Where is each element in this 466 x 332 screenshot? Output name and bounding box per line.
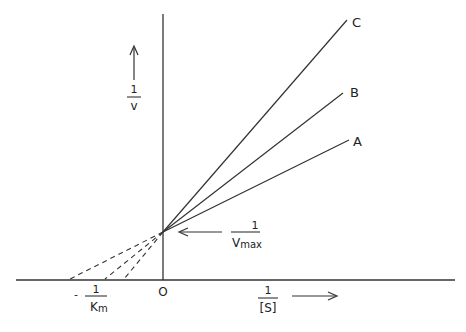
- line-c-label: C: [352, 15, 361, 30]
- line-a-extrapolation: [70, 232, 163, 279]
- origin-label: O: [158, 285, 167, 299]
- vmax-denominator: Vmax: [232, 236, 262, 250]
- y-axis-denominator: v: [130, 99, 137, 113]
- km-sign: -: [74, 288, 78, 301]
- line-b-extrapolation: [105, 232, 163, 279]
- km-denominator: Km: [90, 300, 108, 314]
- line-b-label: B: [350, 85, 359, 100]
- line-c-extrapolation: [124, 232, 163, 279]
- x-axis-numerator: 1: [265, 284, 272, 297]
- line-a-label: A: [353, 134, 362, 149]
- line-c: [163, 20, 347, 232]
- km-numerator: 1: [93, 283, 100, 296]
- x-axis-denominator: [S]: [260, 301, 277, 315]
- vmax-numerator: 1: [252, 219, 259, 232]
- y-axis-numerator: 1: [131, 83, 138, 96]
- lineweaver-burk-plot: C B A 1 v 1 Vmax O - 1 Km 1 [S]: [0, 0, 466, 332]
- line-b: [163, 93, 343, 232]
